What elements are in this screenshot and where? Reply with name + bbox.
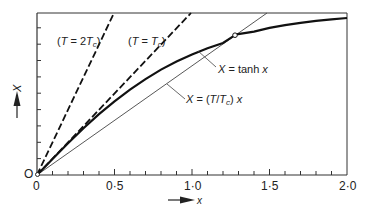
origin-marker xyxy=(36,173,40,177)
label-tanh: X = tanh x xyxy=(217,63,268,75)
y-axis-arrow-icon xyxy=(14,91,21,118)
label-linear: X = (T/Tc) x xyxy=(185,93,243,107)
diagram-canvas: (T = 2Tc) (T = Tc) X = tanh x X = (T/Tc)… xyxy=(0,0,367,216)
x-tick-label-1-0: 1·0 xyxy=(184,179,202,193)
x-tick-label-2-0: 2·0 xyxy=(339,179,357,193)
x-axis-label: x xyxy=(196,195,203,206)
tanh-label-pointer xyxy=(198,51,216,67)
x-axis-arrow-icon xyxy=(168,197,195,204)
x-tick-label-0-5: 0·5 xyxy=(106,179,124,193)
origin-label-y: O xyxy=(24,167,33,181)
label-t-equals-tc: (T = Tc) xyxy=(128,35,165,49)
linear-label-pointer xyxy=(167,84,185,99)
x-tick-label-1-5: 1·5 xyxy=(261,179,279,193)
intersection-point-marker xyxy=(233,33,238,38)
origin-label-x: 0 xyxy=(33,179,40,193)
label-t-equals-2tc: (T = 2Tc) xyxy=(57,35,100,49)
x-axis-ticks xyxy=(53,169,332,175)
